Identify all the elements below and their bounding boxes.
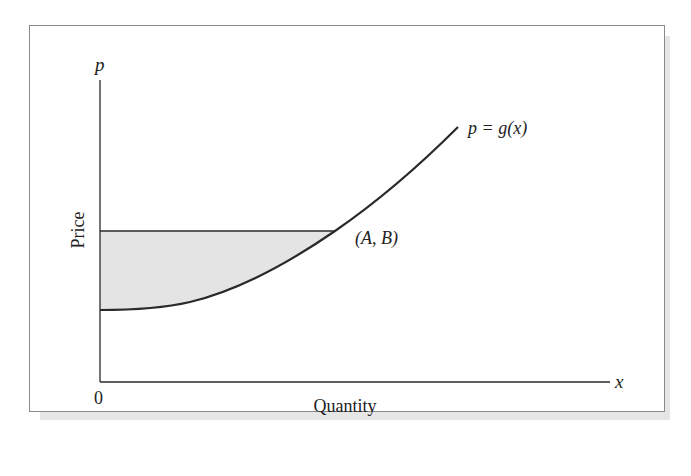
price-label: Price — [68, 211, 88, 248]
shaded-region — [100, 231, 335, 310]
point-label: (A, B) — [355, 228, 398, 249]
p-axis-label: p — [93, 54, 105, 75]
quantity-label: Quantity — [314, 396, 377, 416]
x-axis-label: x — [614, 371, 624, 392]
diagram: p x 0 Quantity Price p = g(x) (A, B) — [0, 0, 691, 476]
curve-label: p = g(x) — [466, 118, 527, 139]
origin-label: 0 — [94, 388, 103, 408]
